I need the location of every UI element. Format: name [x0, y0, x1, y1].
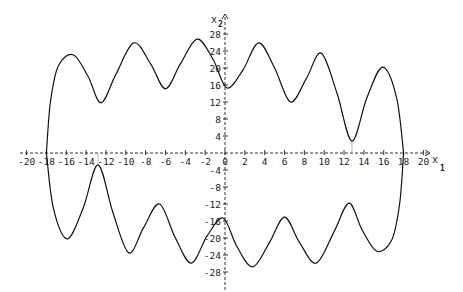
y-tick-label: 4 [215, 131, 221, 142]
y-axis: -28-24-20-16-12-8-4481216202428 [204, 14, 228, 290]
y-tick-label: -8 [210, 182, 222, 193]
x-tick-label: 14 [358, 156, 370, 167]
y-tick-label: 28 [210, 29, 222, 40]
x-tick-label: -8 [140, 156, 152, 167]
axis-titles: x 1 x 2 [211, 14, 445, 173]
x-tick-label: 4 [262, 156, 268, 167]
x-tick-label: -4 [180, 156, 192, 167]
y-tick-label: 16 [210, 80, 222, 91]
x-tick-label: 10 [318, 156, 330, 167]
phase-plot: -20-18-16-14-12-10-8-6-4-202468101214161… [0, 0, 463, 292]
x-axis: -20-18-16-14-12-10-8-6-4-202468101214161… [18, 150, 430, 167]
x-tick-label: 20 [418, 156, 430, 167]
x-tick-label: -16 [58, 156, 75, 167]
y-tick-label: 12 [210, 97, 221, 108]
y-tick-label: -16 [204, 216, 221, 227]
x-axis-title: x [432, 154, 438, 165]
y-tick-label: -12 [204, 199, 221, 210]
x-tick-label: -10 [117, 156, 134, 167]
y-tick-label: 8 [215, 114, 221, 125]
y-tick-label: -4 [210, 165, 222, 176]
y-tick-label: -24 [204, 250, 221, 261]
x-tick-label: 8 [301, 156, 307, 167]
x-tick-label: 2 [242, 156, 248, 167]
y-axis-title-subscript: 2 [218, 20, 223, 29]
x-tick-label: 16 [378, 156, 390, 167]
x-axis-title-subscript: 1 [440, 164, 445, 173]
y-axis-title: x [211, 14, 217, 25]
x-tick-label: -20 [18, 156, 35, 167]
x-tick-label: -14 [78, 156, 95, 167]
x-tick-label: -12 [97, 156, 114, 167]
y-tick-label: -28 [204, 267, 221, 278]
x-tick-label: 12 [338, 156, 349, 167]
x-tick-label: -6 [160, 156, 172, 167]
x-tick-label: 6 [282, 156, 288, 167]
y-tick-label: 24 [210, 46, 222, 57]
